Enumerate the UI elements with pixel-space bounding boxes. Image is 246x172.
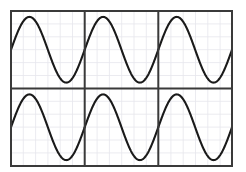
sine-wave-grid-figure: [0, 0, 246, 172]
figure-background: [0, 0, 246, 172]
figure-canvas: [0, 0, 246, 172]
